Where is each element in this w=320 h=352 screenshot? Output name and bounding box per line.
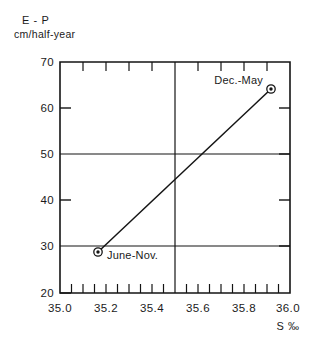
y-axis-title-line2: cm/half-year	[14, 28, 76, 40]
data-point-dec-may[interactable]	[267, 85, 275, 93]
data-series	[94, 85, 275, 256]
x-axis-tick-labels: 35.0 35.2 35.4 35.6 35.8 36.0	[48, 302, 300, 314]
y-tick-label-60: 60	[40, 102, 54, 114]
annotation-june-nov: June-Nov.	[107, 249, 158, 261]
chart-figure: E - P cm/half-year	[0, 0, 320, 352]
series-connector	[98, 89, 271, 252]
data-point-june-nov[interactable]	[94, 248, 102, 256]
y-tick-label-30: 30	[40, 240, 54, 252]
y-tick-label-20: 20	[40, 287, 54, 299]
x-tick-label-35-0: 35.0	[48, 302, 72, 314]
x-tick-label-35-8: 35.8	[232, 302, 256, 314]
annotation-dec-may: Dec.-May	[214, 74, 263, 86]
chart-canvas: E - P cm/half-year	[0, 0, 320, 352]
x-tick-label-36-0: 36.0	[276, 302, 300, 314]
x-tick-label-35-2: 35.2	[94, 302, 118, 314]
y-tick-label-40: 40	[40, 194, 54, 206]
x-tick-label-35-6: 35.6	[186, 302, 210, 314]
x-axis-title: S ‰	[276, 320, 299, 332]
y-axis-title-line1: E - P	[22, 14, 49, 26]
x-tick-label-35-4: 35.4	[140, 302, 164, 314]
y-tick-label-70: 70	[40, 56, 54, 68]
gridlines	[60, 62, 290, 293]
y-axis-tick-labels: 70 60 50 40 30 20	[40, 56, 54, 299]
y-tick-label-50: 50	[40, 148, 54, 160]
